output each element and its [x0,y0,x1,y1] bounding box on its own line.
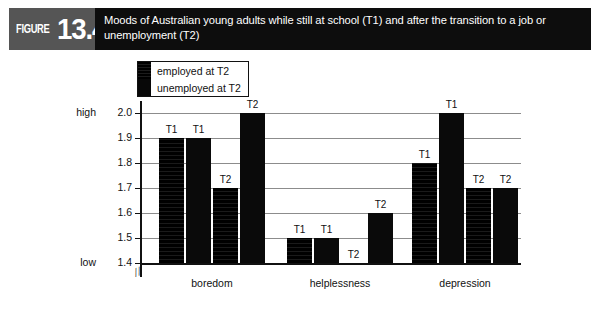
legend-swatch-icon-employed [138,62,151,79]
bar-value-label: T2 [337,249,370,260]
y-tick-label: 1.5 [100,231,132,243]
bar [493,188,518,263]
legend-label-employed: employed at T2 [151,65,236,77]
bar-value-label: T2 [364,199,397,210]
bar-value-label: T2 [236,99,269,110]
x-axis-line [140,263,521,265]
bar-value-label: T1 [435,99,468,110]
y-tick-label: 1.8 [100,156,132,168]
y-tick-label: 1.7 [100,181,132,193]
bar [412,163,437,263]
figure-header: FIGURE 13.4 Moods of Australian young ad… [9,8,591,50]
bar-value-label: T1 [310,224,343,235]
bar [159,138,184,263]
bar [287,238,312,263]
legend-item-unemployed: unemployed at T2 [138,79,248,96]
figure-number-badge: FIGURE 13.4 [9,8,95,50]
bar-value-label: T2 [489,174,522,185]
legend-label-unemployed: unemployed at T2 [151,82,248,94]
figure-badge-word: FIGURE [16,22,49,36]
bar [368,213,393,263]
plot-area: 1.41.51.61.71.81.92.0highlow//T1T1T2T2T1… [9,50,591,304]
bar [213,188,238,263]
chart-legend: employed at T2 unemployed at T2 [137,61,249,97]
category-label: helplessness [285,277,395,289]
legend-swatch-icon-unemployed [138,79,151,96]
figure-badge-number: 13.4 [57,14,95,44]
bar-value-label: T1 [408,149,441,160]
category-label: boredom [157,277,267,289]
y-axis-low-label: low [64,256,96,268]
y-tick-label: 1.6 [100,206,132,218]
figure-container: FIGURE 13.4 Moods of Australian young ad… [0,0,600,321]
legend-item-employed: employed at T2 [138,62,248,79]
category-label: depression [410,277,520,289]
y-axis-line [140,101,142,277]
bar-value-label: T1 [182,124,215,135]
figure-title: Moods of Australian young adults while s… [95,8,584,43]
axis-break-icon: // [132,263,144,280]
bar [439,113,464,263]
y-tick-label: 2.0 [100,106,132,118]
chart-canvas: 1.41.51.61.71.81.92.0highlow//T1T1T2T2T1… [9,50,591,304]
y-axis-high-label: high [64,106,96,118]
bar [466,188,491,263]
y-tick-label: 1.9 [100,131,132,143]
bar [186,138,211,263]
y-tick-label: 1.4 [100,256,132,268]
bar [314,238,339,263]
bar [240,113,265,263]
bar-value-label: T2 [209,174,242,185]
